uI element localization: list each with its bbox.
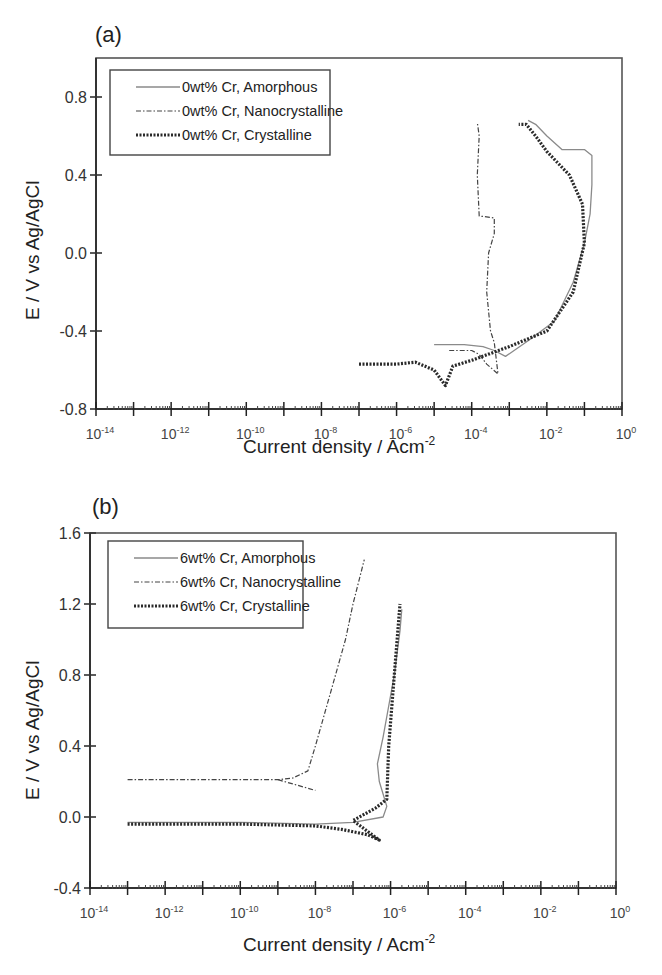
x-tick-label: 10-6 (383, 904, 407, 921)
x-tick-label: 10-2 (533, 904, 557, 921)
series-branch-dash-dot (278, 780, 316, 791)
series-line-dotted-heavy (128, 604, 400, 840)
series-line-solid-light (434, 120, 592, 356)
y-tick-label: 0.8 (65, 89, 87, 106)
y-tick-label: 0.4 (65, 167, 87, 184)
x-tick-label: 10-14 (86, 425, 115, 442)
x-tick-label: 100 (610, 904, 631, 921)
y-tick-label: -0.4 (53, 880, 81, 897)
series-line-dotted-heavy (359, 124, 584, 385)
x-tick-label: 10-8 (314, 425, 338, 442)
series-line-dash-dot (449, 122, 498, 374)
y-tick-label: 1.6 (59, 525, 81, 542)
x-tick-label: 10-4 (458, 904, 482, 921)
legend-entry-label: 6wt% Cr, Amorphous (180, 550, 315, 566)
x-tick-label: 100 (616, 425, 637, 442)
x-tick-label: 10-6 (389, 425, 413, 442)
x-tick-label: 10-8 (308, 904, 332, 921)
x-tick-label: 10-12 (155, 904, 184, 921)
legend-entry-label: 0wt% Cr, Crystalline (182, 127, 312, 143)
x-tick-label: 10-2 (539, 425, 563, 442)
y-tick-label: -0.8 (59, 401, 87, 418)
legend-b: 6wt% Cr, Amorphous6wt% Cr, Nanocrystalli… (108, 541, 341, 628)
x-tick-label: 10-4 (464, 425, 488, 442)
x-tick-label: 10-12 (161, 425, 190, 442)
figure-canvas: -0.8-0.40.00.40.810-1410-1210-1010-810-6… (0, 0, 662, 975)
legend-entry-label: 6wt% Cr, Crystalline (180, 598, 310, 614)
chart-panel-a: -0.8-0.40.00.40.810-1410-1210-1010-810-6… (59, 58, 636, 442)
y-tick-label: 0.0 (59, 809, 81, 826)
y-tick-label: 0.8 (59, 667, 81, 684)
series-line-solid-light (128, 609, 402, 824)
chart-panel-b: -0.40.00.40.81.21.610-1410-1210-1010-810… (53, 525, 630, 921)
y-tick-label: 1.2 (59, 596, 81, 613)
x-tick-label: 10-14 (80, 904, 109, 921)
y-tick-label: 0.0 (65, 245, 87, 262)
x-tick-label: 10-10 (236, 425, 265, 442)
legend-a: 0wt% Cr, Amorphous0wt% Cr, Nanocrystalli… (110, 70, 343, 155)
y-tick-label: 0.4 (59, 738, 81, 755)
legend-entry-label: 0wt% Cr, Amorphous (182, 79, 317, 95)
legend-entry-label: 0wt% Cr, Nanocrystalline (182, 103, 343, 119)
legend-entry-label: 6wt% Cr, Nanocrystalline (180, 574, 341, 590)
y-tick-label: -0.4 (59, 323, 87, 340)
x-tick-label: 10-10 (230, 904, 259, 921)
